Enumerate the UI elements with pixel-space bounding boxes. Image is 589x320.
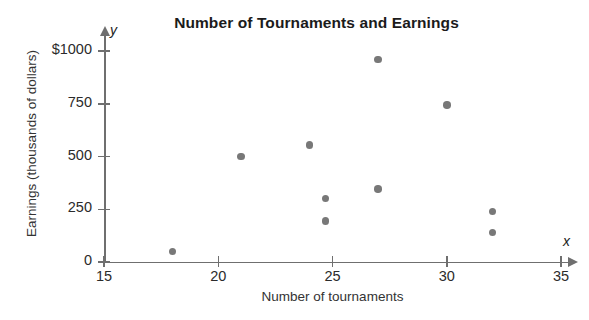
data-point: [443, 101, 451, 109]
data-point: [374, 56, 382, 64]
x-tick-label-20: 20: [188, 268, 248, 284]
data-point: [322, 195, 330, 203]
x-tick-label-35: 35: [531, 268, 589, 284]
y-tick-250: [98, 209, 110, 211]
y-tick-label-0: 0: [0, 252, 92, 268]
x-tick-label-15: 15: [74, 268, 134, 284]
y-axis-arrow-icon: [100, 26, 110, 36]
x-tick-30: [446, 256, 448, 267]
x-tick-label-30: 30: [417, 268, 477, 284]
y-tick-750: [98, 103, 110, 105]
x-tick-15: [103, 256, 105, 267]
x-tick-20: [218, 256, 220, 267]
data-point: [489, 229, 497, 237]
data-point: [169, 248, 177, 256]
x-axis-line: [104, 262, 569, 264]
data-point: [374, 185, 382, 193]
y-axis-variable: y: [110, 22, 117, 38]
y-tick-500: [98, 156, 110, 158]
data-point: [306, 141, 314, 149]
x-axis-label: Number of tournaments: [104, 289, 561, 304]
x-axis-arrow-icon: [568, 257, 578, 267]
y-tick-label-250: 250: [0, 199, 92, 215]
data-point: [322, 217, 330, 225]
scatter-chart: Number of Tournaments and Earnings Earni…: [0, 0, 589, 320]
y-tick-1000: [98, 50, 110, 52]
x-tick-label-25: 25: [303, 268, 363, 284]
data-point: [237, 153, 245, 161]
y-axis-line: [104, 36, 106, 263]
y-tick-label-1000: $1000: [0, 41, 92, 57]
y-tick-label-750: 750: [0, 94, 92, 110]
x-axis-variable: x: [563, 233, 570, 249]
x-tick-35: [560, 256, 562, 267]
x-tick-25: [332, 256, 334, 267]
chart-title: Number of Tournaments and Earnings: [0, 14, 589, 32]
data-point: [489, 208, 497, 216]
y-tick-label-500: 500: [0, 147, 92, 163]
